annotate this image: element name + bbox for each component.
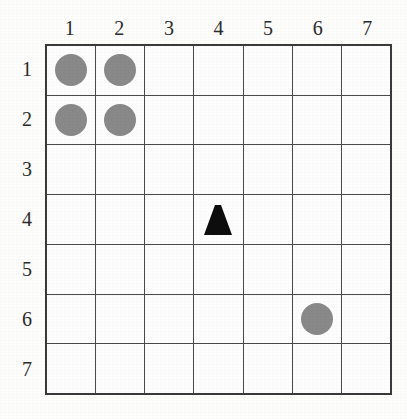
- grid-cell-c6-r1[interactable]: [293, 46, 342, 95]
- grid-cell-c1-r3[interactable]: [47, 145, 96, 194]
- circle-token[interactable]: [55, 54, 87, 86]
- grid-cell-c5-r3[interactable]: [244, 145, 293, 194]
- column-header-2: 2: [95, 13, 145, 43]
- row-header-4: 4: [12, 194, 42, 244]
- grid-cell-c2-r3[interactable]: [96, 145, 145, 194]
- triangle-token[interactable]: [202, 205, 234, 235]
- column-header-6: 6: [293, 13, 343, 43]
- grid-cell-c7-r6[interactable]: [342, 295, 390, 344]
- grid-cell-c7-r1[interactable]: [342, 46, 390, 95]
- grid-cell-c4-r3[interactable]: [194, 145, 243, 194]
- circle-token[interactable]: [301, 303, 333, 335]
- row-header-7: 7: [12, 345, 42, 395]
- grid-cell-c1-r6[interactable]: [47, 295, 96, 344]
- grid-board: 1 2 3 4 5 6 7 1 2 3 4 5 6 7: [0, 0, 407, 419]
- grid-cells-container: [45, 44, 392, 395]
- grid-cell-c3-r2[interactable]: [145, 96, 194, 145]
- grid-cell-c4-r5[interactable]: [194, 245, 243, 294]
- grid-cell-c2-r7[interactable]: [96, 344, 145, 393]
- grid-cell-c6-r2[interactable]: [293, 96, 342, 145]
- circle-token[interactable]: [55, 104, 87, 136]
- grid-row: [47, 96, 390, 146]
- row-header-3: 3: [12, 144, 42, 194]
- column-header-3: 3: [144, 13, 194, 43]
- grid-cell-c6-r3[interactable]: [293, 145, 342, 194]
- grid-cell-c7-r4[interactable]: [342, 195, 390, 244]
- grid-cell-c3-r7[interactable]: [145, 344, 194, 393]
- grid-cell-c2-r6[interactable]: [96, 295, 145, 344]
- grid-cell-c3-r4[interactable]: [145, 195, 194, 244]
- grid-cell-c1-r5[interactable]: [47, 245, 96, 294]
- grid-cell-c7-r2[interactable]: [342, 96, 390, 145]
- column-header-4: 4: [194, 13, 244, 43]
- row-header-column: 1 2 3 4 5 6 7: [12, 44, 42, 395]
- grid-row: [47, 295, 390, 345]
- grid-cell-c2-r4[interactable]: [96, 195, 145, 244]
- grid-row: [47, 195, 390, 245]
- circle-token[interactable]: [104, 54, 136, 86]
- grid-cell-c1-r7[interactable]: [47, 344, 96, 393]
- grid-cell-c1-r4[interactable]: [47, 195, 96, 244]
- grid-cell-c7-r5[interactable]: [342, 245, 390, 294]
- grid-cell-c3-r1[interactable]: [145, 46, 194, 95]
- grid-cell-c7-r7[interactable]: [342, 344, 390, 393]
- grid-cell-c3-r6[interactable]: [145, 295, 194, 344]
- grid-cell-c4-r4[interactable]: [194, 195, 243, 244]
- grid-cell-c2-r1[interactable]: [96, 46, 145, 95]
- grid-cell-c7-r3[interactable]: [342, 145, 390, 194]
- grid-row: [47, 145, 390, 195]
- grid-cell-c4-r2[interactable]: [194, 96, 243, 145]
- grid-cell-c4-r7[interactable]: [194, 344, 243, 393]
- grid-cell-c5-r6[interactable]: [244, 295, 293, 344]
- grid-row: [47, 344, 390, 393]
- grid-row: [47, 245, 390, 295]
- row-header-2: 2: [12, 94, 42, 144]
- row-header-5: 5: [12, 245, 42, 295]
- grid-cell-c3-r3[interactable]: [145, 145, 194, 194]
- row-header-6: 6: [12, 295, 42, 345]
- grid-cell-c3-r5[interactable]: [145, 245, 194, 294]
- column-header-row: 1 2 3 4 5 6 7: [45, 13, 392, 43]
- grid-cell-c2-r2[interactable]: [96, 96, 145, 145]
- grid-cell-c5-r4[interactable]: [244, 195, 293, 244]
- grid-cell-c6-r4[interactable]: [293, 195, 342, 244]
- grid-cell-c5-r7[interactable]: [244, 344, 293, 393]
- grid-cell-c4-r1[interactable]: [194, 46, 243, 95]
- grid-cell-c1-r1[interactable]: [47, 46, 96, 95]
- grid-cell-c2-r5[interactable]: [96, 245, 145, 294]
- row-header-1: 1: [12, 44, 42, 94]
- grid-cell-c5-r2[interactable]: [244, 96, 293, 145]
- circle-token[interactable]: [104, 104, 136, 136]
- column-header-7: 7: [342, 13, 392, 43]
- grid-cell-c6-r6[interactable]: [293, 295, 342, 344]
- grid-cell-c5-r1[interactable]: [244, 46, 293, 95]
- column-header-1: 1: [45, 13, 95, 43]
- column-header-5: 5: [243, 13, 293, 43]
- grid-row: [47, 46, 390, 96]
- grid-cell-c4-r6[interactable]: [194, 295, 243, 344]
- grid-cell-c5-r5[interactable]: [244, 245, 293, 294]
- grid-cell-c6-r7[interactable]: [293, 344, 342, 393]
- grid-cell-c6-r5[interactable]: [293, 245, 342, 294]
- grid-cell-c1-r2[interactable]: [47, 96, 96, 145]
